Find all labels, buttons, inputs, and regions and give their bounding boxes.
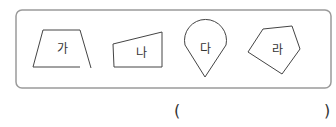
answer-blank[interactable] bbox=[186, 101, 320, 119]
shape-na-label: 나 bbox=[136, 46, 147, 60]
answer-open-paren: ( bbox=[174, 101, 180, 120]
shape-ga: 가 bbox=[33, 30, 91, 68]
shape-ra-label: 라 bbox=[272, 43, 283, 57]
shape-da: 다 bbox=[184, 19, 226, 77]
answer-close-paren: ) bbox=[324, 101, 330, 120]
shape-ga-label: 가 bbox=[57, 42, 68, 56]
shape-ra: 라 bbox=[248, 26, 300, 74]
shape-da-label: 다 bbox=[200, 42, 211, 56]
shape-na: 나 bbox=[113, 32, 162, 67]
